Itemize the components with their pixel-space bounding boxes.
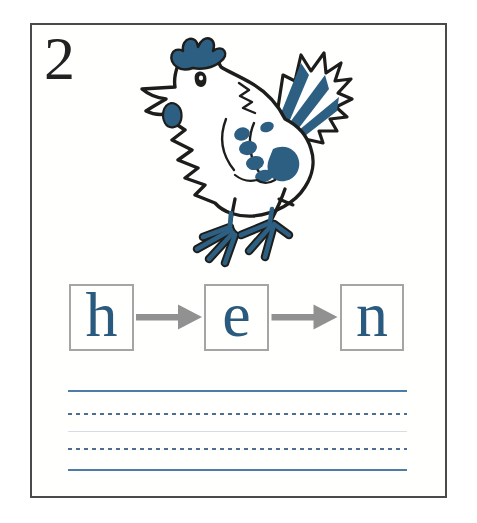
writing-line-solid-top <box>68 390 407 392</box>
arrow-right-icon <box>136 303 202 331</box>
hen-comb <box>171 38 225 69</box>
hen-wattle <box>163 103 182 127</box>
hen-illustration <box>125 27 357 269</box>
writing-line-faint-middle <box>68 431 407 432</box>
arrow-right-icon <box>271 303 338 331</box>
writing-line-solid-bottom <box>68 469 407 471</box>
letter-box-e: e <box>204 284 269 351</box>
page-number: 2 <box>44 27 75 89</box>
writing-line-dashed-upper <box>68 413 407 415</box>
letter-label: e <box>222 283 250 347</box>
writing-area <box>68 385 407 477</box>
letter-label: h <box>86 283 118 347</box>
letter-label: n <box>356 283 388 347</box>
hen-icon <box>125 27 357 269</box>
letter-box-h: h <box>69 284 134 351</box>
writing-line-dashed-lower <box>68 448 407 450</box>
letter-box-n: n <box>340 284 404 351</box>
worksheet-page: 2 <box>30 23 447 498</box>
